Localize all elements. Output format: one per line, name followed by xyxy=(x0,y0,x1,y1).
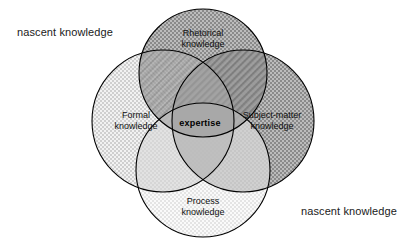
circle-label-process-line2: knowledge xyxy=(181,207,224,218)
annotation-nascent-knowledge-bottom-right: nascent knowledge xyxy=(301,205,397,217)
circle-label-process-line1: Process xyxy=(181,196,224,207)
circle-label-formal-line1: Formal xyxy=(114,110,157,121)
circle-label-rhetorical: Rhetorical knowledge xyxy=(181,28,224,50)
circle-label-subject-matter-line1: Subject-matter xyxy=(243,110,302,121)
circle-label-subject-matter-line2: knowledge xyxy=(243,121,302,132)
circle-label-formal-line2: knowledge xyxy=(114,121,157,132)
circle-label-process: Process knowledge xyxy=(181,196,224,218)
circle-label-rhetorical-line1: Rhetorical xyxy=(181,28,224,39)
circle-label-formal: Formal knowledge xyxy=(114,110,157,132)
circle-label-rhetorical-line2: knowledge xyxy=(181,39,224,50)
venn-diagram-figure: Rhetorical knowledge Formal knowledge Su… xyxy=(0,0,406,249)
annotation-nascent-knowledge-top-left: nascent knowledge xyxy=(17,26,113,38)
center-label-expertise: expertise xyxy=(179,118,220,128)
circle-label-subject-matter: Subject-matter knowledge xyxy=(243,110,302,132)
